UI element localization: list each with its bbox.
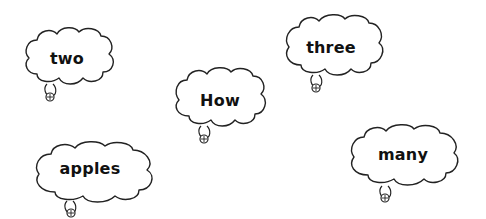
thought-bubble-two: two <box>23 26 115 84</box>
word-label: three <box>306 38 356 57</box>
thought-bubble-apples: apples <box>33 140 156 201</box>
thought-cloud-icon <box>33 140 156 219</box>
word-bubble-canvas: two How three apples <box>0 0 486 219</box>
word-label: two <box>50 49 84 68</box>
thought-cloud-icon <box>348 123 460 205</box>
thought-bubble-how: How <box>173 66 267 126</box>
thought-bubble-three: three <box>283 13 385 75</box>
thought-bubble-many: many <box>348 123 460 186</box>
word-label: apples <box>60 159 121 178</box>
word-label: many <box>378 145 428 164</box>
word-label: How <box>200 91 240 110</box>
